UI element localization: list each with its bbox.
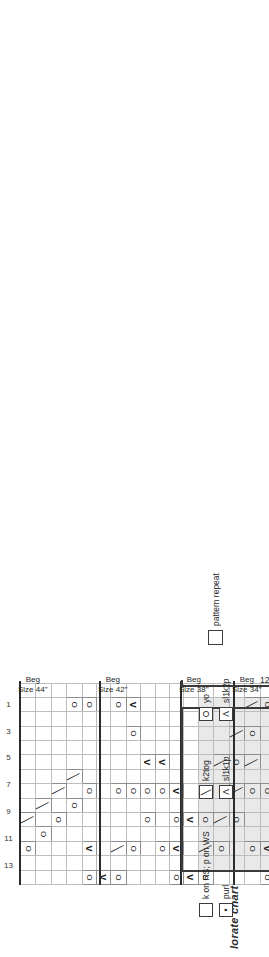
chart-cell [126,841,140,855]
chart-cell [141,769,155,783]
chart-row [155,683,169,884]
chart-cell [111,755,126,769]
legend-symbol-icon [208,630,223,645]
chart-cell [51,741,66,755]
chart-cell [141,697,155,711]
column-number: 7 [2,780,15,789]
chart-cell [170,827,184,841]
chart-cell [170,813,184,827]
chart-cell [21,798,36,812]
chart-cell [111,726,126,740]
chart-row [51,683,66,884]
chart-cell [36,870,51,884]
chart-cell [82,784,96,798]
legend-label: k on RS; p on WS [201,831,211,899]
chart-cell [36,697,51,711]
legend-symbol-icon: Λ [219,707,233,721]
chart-cell [184,726,198,740]
chart-cell [21,769,36,783]
chart-cell [198,798,213,812]
legend-symbol-icon: • [219,903,233,917]
chart-cell [214,856,229,870]
chart-cell [126,813,140,827]
chart-cell [155,697,169,711]
chart-cell [82,798,96,812]
beg-marker-size: Size 42" [98,685,128,695]
chart-cell [67,784,82,798]
column-number: 9 [2,807,15,816]
chart-cell [51,870,66,884]
chart-cell [214,813,229,827]
chart-row [141,683,155,884]
chart-cell [155,841,169,855]
chart-cell [170,769,184,783]
column-number: 13 [2,860,15,869]
chart-cell [51,827,66,841]
chart-cell [155,741,169,755]
legend-label: purl [221,885,231,899]
chart-cell [36,798,51,812]
chart-cell [245,697,260,711]
chart-cell [155,813,169,827]
legend-label: pattern repeat [211,573,221,626]
chart-cell [82,712,96,726]
chart-cell [126,726,140,740]
chart-cell [184,813,198,827]
beg-marker-label: BegSize 44" [18,675,48,694]
chart-row [126,683,140,884]
chart-cell [126,683,140,697]
legend-symbol-icon: O [199,707,213,721]
chart-cell [21,870,36,884]
chart-cell [82,827,96,841]
chart-cell [141,870,155,884]
chart-cell [51,712,66,726]
chart-cell [155,726,169,740]
chart-cell [111,798,126,812]
chart-cell [229,741,244,755]
beg-marker-title: Beg [18,675,48,685]
beg-marker-line [99,681,101,885]
chart-cell [51,726,66,740]
chart-cell [126,798,140,812]
chart-cell [214,741,229,755]
chart-cell [198,741,213,755]
chart-cell [229,798,244,812]
chart-cell [51,697,66,711]
chart-cell [67,697,82,711]
chart-cell [141,712,155,726]
legend-item: pattern repeat [206,573,224,645]
chart-cell [260,712,269,726]
chart-cell [111,784,126,798]
chart-row [67,683,82,884]
chart-cell [36,813,51,827]
chart-cell [82,856,96,870]
chart-cell [51,798,66,812]
chart-cell [260,827,269,841]
chart-cell [229,827,244,841]
chart-cell [21,755,36,769]
chart-cell [214,827,229,841]
chart-cell [170,856,184,870]
chart-cell [82,813,96,827]
chart-cell [155,784,169,798]
chart-cell [260,813,269,827]
chart-cell [82,769,96,783]
chart-cell [260,726,269,740]
beg-marker-line [19,681,21,885]
chart-sheet: lorate chart A 131197531 1412108642 BegS… [0,0,269,957]
chart-cell [141,841,155,855]
chart-cell [111,813,126,827]
chart-row [260,683,269,884]
chart-cell [82,741,96,755]
chart-cell [141,827,155,841]
chart-cell [184,798,198,812]
chart-cell [245,769,260,783]
column-number: 1 [2,700,15,709]
chart-cell [82,726,96,740]
chart-cell [21,813,36,827]
chart-cell [245,798,260,812]
chart-cell [155,856,169,870]
chart-cell [111,769,126,783]
chart-cell [214,726,229,740]
chart-cell [155,755,169,769]
